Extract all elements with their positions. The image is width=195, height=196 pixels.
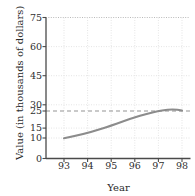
x-axis-title: Year [46, 176, 191, 195]
x-tick-label-93: 93 [51, 160, 77, 172]
chart-figure: 75 60 45 30 25 15 10 0 93 94 95 96 97 98… [0, 0, 195, 196]
x-tick-label-96: 96 [122, 160, 148, 172]
horizontal-gridlines [46, 18, 190, 139]
x-tick-label-95: 95 [98, 160, 124, 172]
y-axis-title-text: Value (in thousands of dollars) [14, 6, 25, 160]
x-tick-label-97: 97 [145, 160, 171, 172]
x-axis-title-text: Year [107, 182, 129, 193]
x-tick-label-94: 94 [75, 160, 101, 172]
x-tick-label-98: 98 [169, 160, 195, 172]
value-curve [64, 110, 182, 139]
y-axis-title: Value (in thousands of dollars) [8, 10, 22, 160]
vertical-gridlines [64, 18, 182, 159]
